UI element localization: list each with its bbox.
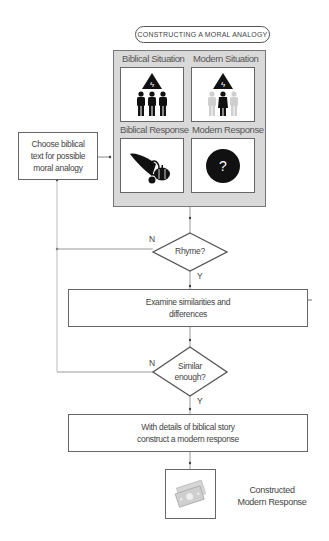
decision-rhyme-label: Rhyme? (160, 246, 220, 257)
cell-biblical-situation: ϟ (120, 67, 184, 122)
cell-modern-response: ? (191, 138, 255, 193)
cell-modern-situation: ϟ (191, 67, 255, 122)
step-line: With details of biblical story (141, 421, 235, 433)
money-bills-icon (171, 479, 211, 509)
start-box-choose-text: Choose biblical text for possible moral … (18, 132, 98, 180)
step-line: Examine similarities and (146, 296, 230, 308)
question-mark-circle-icon: ? (206, 149, 240, 183)
start-box-line: moral analogy (33, 162, 83, 174)
start-box-line: Choose biblical (31, 138, 84, 150)
result-label: Constructed Modern Response (232, 484, 312, 508)
result-line: Modern Response (232, 496, 312, 508)
decision-similar-no-label: N (149, 358, 155, 368)
decision-line: enough? (160, 372, 220, 383)
decision-line: Similar (160, 361, 220, 372)
cell-label-biblical-situation: Biblical Situation (122, 53, 185, 64)
decision-rhyme-no-label: N (149, 234, 155, 244)
step-line: differences (169, 308, 207, 320)
result-line: Constructed (232, 484, 312, 496)
decision-similar-label: Similar enough? (160, 361, 220, 383)
cell-label-biblical-response: Biblical Response (120, 124, 189, 135)
warning-triangle-with-three-people-icon: ϟ (126, 71, 178, 119)
cornucopia-harvest-icon (126, 144, 178, 188)
cell-biblical-response (120, 138, 184, 193)
decision-rhyme-yes-label: Y (197, 271, 203, 281)
warning-triangle-with-one-highlighted-person-icon: ϟ (197, 71, 249, 119)
cell-label-modern-response: Modern Response (192, 124, 264, 135)
start-box-line: text for possible (31, 150, 85, 162)
step-line: construct a modern response (137, 433, 239, 445)
step-construct-response: With details of biblical story construct… (68, 414, 308, 452)
step-examine-similarities: Examine similarities and differences (68, 289, 308, 327)
diagram-title: CONSTRUCTING A MORAL ANALOGY (135, 26, 270, 43)
analogy-panel: Biblical Situation Modern Situation ϟ ϟ … (113, 50, 266, 207)
cell-label-modern-situation: Modern Situation (193, 53, 258, 64)
decision-similar-yes-label: Y (197, 396, 203, 406)
result-box (165, 469, 216, 519)
